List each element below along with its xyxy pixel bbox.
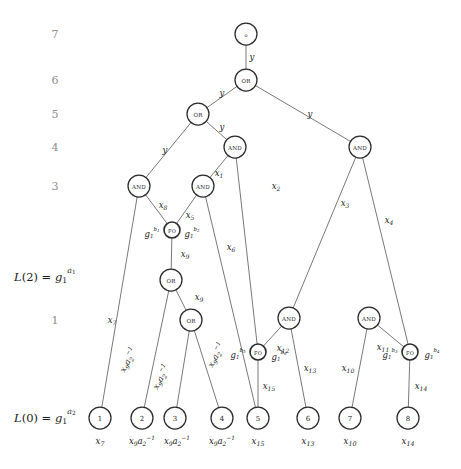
leaf-bottom-label-2: x9a2−1 bbox=[129, 433, 155, 447]
fo-label-b2: g1b2 bbox=[185, 226, 200, 240]
edge-label-x9-lower: x9 bbox=[195, 292, 204, 303]
node-leaf-8[interactable]: 8 bbox=[397, 407, 419, 429]
edge-label-x10: x10 bbox=[342, 363, 355, 374]
level-1: 1 bbox=[52, 314, 59, 327]
node-leaf-3[interactable]: 3 bbox=[164, 407, 186, 429]
edge-label-y-and4b: y bbox=[307, 109, 313, 119]
label-L2: L(2) = g1a1 bbox=[13, 265, 76, 284]
edge-label-x2: x2 bbox=[272, 181, 281, 192]
edge-label-x3: x3 bbox=[341, 198, 350, 209]
edge-label-x14: x14 bbox=[415, 381, 428, 392]
label-L0: L(0) = g1a2 bbox=[13, 406, 76, 425]
edge-label-y-and4a: y bbox=[219, 122, 225, 132]
node-fo-upper[interactable]: FO bbox=[164, 222, 180, 238]
edge-label-x7: x7 bbox=[108, 315, 117, 326]
edge-label-x1: x1 bbox=[215, 168, 224, 179]
node-leaf-1-label: 1 bbox=[98, 415, 102, 423]
edge-or1-leaf3 bbox=[177, 331, 189, 407]
level-6: 6 bbox=[52, 74, 59, 87]
edge-label-x8: x8 bbox=[159, 200, 168, 211]
edge-label-x9a2inv-b: x9a2−1 bbox=[148, 362, 172, 392]
edge-and3a-leaf1 bbox=[102, 197, 137, 407]
edge-label-y-root: y bbox=[249, 52, 255, 62]
level-3: 3 bbox=[52, 180, 59, 193]
node-and-level3-left[interactable]: AND bbox=[128, 175, 150, 197]
edge-or2-or1 bbox=[176, 290, 186, 310]
node-and-level4-right-label: AND bbox=[352, 145, 367, 151]
label-layer: yyyyyx1x2x3x4x8x5x6x9x9x7x12x13x11x10x15… bbox=[13, 28, 440, 447]
node-and-level3-right[interactable]: AND bbox=[192, 175, 214, 197]
edge-and1b-leaf7 bbox=[352, 329, 367, 407]
node-leaf-2[interactable]: 2 bbox=[131, 407, 153, 429]
edge-label-x9a2inv-a: x9a2−1 bbox=[115, 345, 139, 375]
node-or-level5[interactable]: OR bbox=[187, 103, 209, 125]
node-and-level4-left[interactable]: AND bbox=[224, 136, 246, 158]
edge-label-x9-upper: x9 bbox=[181, 249, 190, 260]
node-and-level1-right-label: AND bbox=[361, 316, 376, 322]
node-leaf-3-label: 3 bbox=[173, 415, 177, 423]
node-fo-right-label: FO bbox=[406, 350, 414, 356]
node-leaf-2-label: 2 bbox=[140, 415, 144, 423]
node-or-level1[interactable]: OR bbox=[180, 309, 202, 331]
node-fo-mid[interactable]: FO bbox=[250, 344, 266, 360]
edge-label-y-or5: y bbox=[219, 88, 225, 98]
node-or-level1-label: OR bbox=[186, 318, 196, 324]
node-and-level1-right[interactable]: AND bbox=[358, 307, 380, 329]
node-leaf-5[interactable]: 5 bbox=[247, 407, 269, 429]
node-and-level1-mid[interactable]: AND bbox=[278, 307, 300, 329]
level-7: 7 bbox=[52, 28, 59, 41]
leaf-bottom-label-8: x14 bbox=[402, 436, 415, 447]
node-and-level4-right[interactable]: AND bbox=[349, 136, 371, 158]
leaf-bottom-label-3: x9a2−1 bbox=[164, 433, 190, 447]
node-leaf-1[interactable]: 1 bbox=[89, 407, 111, 429]
edge-label-x9a2inv-c: x9a2−1 bbox=[203, 340, 227, 370]
node-leaf-8-label: 8 bbox=[406, 415, 410, 423]
node-or-level2[interactable]: OR bbox=[160, 269, 182, 291]
edge-label-x5: x5 bbox=[186, 210, 195, 221]
node-and-level4-left-label: AND bbox=[227, 145, 242, 151]
node-leaf-7-label: 7 bbox=[348, 415, 352, 423]
node-or-level6-label: OR bbox=[241, 78, 251, 84]
fo-label-b4: g1b4 bbox=[425, 347, 440, 361]
leaf-bottom-label-6: x13 bbox=[302, 436, 315, 447]
edge-and4a-fo2 bbox=[236, 158, 257, 344]
edge-fo1-or2 bbox=[171, 238, 172, 269]
edge-or5-and3a bbox=[146, 123, 191, 178]
node-root-output-label: o bbox=[244, 32, 247, 38]
node-and-level3-left-label: AND bbox=[131, 184, 146, 190]
circuit-diagram-svg: oORORANDANDANDANDFOORORANDANDFOFO1234567… bbox=[0, 0, 461, 469]
node-layer: oORORANDANDANDANDFOORORANDANDFOFO1234567… bbox=[89, 23, 419, 429]
node-or-level5-label: OR bbox=[193, 112, 203, 118]
level-5: 5 bbox=[52, 108, 59, 121]
node-leaf-6[interactable]: 6 bbox=[297, 407, 319, 429]
node-or-level6[interactable]: OR bbox=[235, 69, 257, 91]
edge-and4b-and1a bbox=[293, 157, 356, 308]
node-leaf-4-label: 4 bbox=[220, 415, 225, 423]
node-and-level1-mid-label: AND bbox=[281, 316, 296, 322]
node-or-level2-label: OR bbox=[166, 278, 176, 284]
leaf-bottom-label-7: x10 bbox=[344, 436, 357, 447]
leaf-bottom-label-5: x15 bbox=[252, 436, 265, 447]
edge-label-x4: x4 bbox=[385, 215, 394, 226]
fo-label-b1: g1b1 bbox=[145, 226, 160, 240]
node-fo-upper-label: FO bbox=[168, 228, 176, 234]
edge-and3b-leaf5 bbox=[206, 197, 256, 408]
circuit-diagram-canvas: oORORANDANDANDANDFOORORANDANDFOFO1234567… bbox=[0, 0, 461, 469]
node-leaf-6-label: 6 bbox=[306, 415, 311, 423]
edge-fo3-leaf8 bbox=[408, 360, 409, 407]
node-root-output[interactable]: o bbox=[235, 23, 257, 45]
node-and-level3-right-label: AND bbox=[195, 184, 210, 190]
node-fo-mid-label: FO bbox=[254, 350, 262, 356]
edge-or6-and4b bbox=[255, 86, 350, 142]
leaf-bottom-label-4: x9a2−1 bbox=[209, 433, 235, 447]
node-leaf-5-label: 5 bbox=[256, 415, 260, 423]
node-fo-right[interactable]: FO bbox=[402, 344, 418, 360]
node-leaf-7[interactable]: 7 bbox=[339, 407, 361, 429]
edge-label-x13: x13 bbox=[304, 363, 317, 374]
edge-label-x15: x15 bbox=[263, 381, 276, 392]
leaf-bottom-label-1: x7 bbox=[96, 436, 105, 447]
node-leaf-4[interactable]: 4 bbox=[211, 407, 233, 429]
edge-label-y-and3a: y bbox=[162, 145, 168, 155]
level-4: 4 bbox=[52, 141, 59, 154]
edge-label-x6: x6 bbox=[227, 242, 236, 253]
